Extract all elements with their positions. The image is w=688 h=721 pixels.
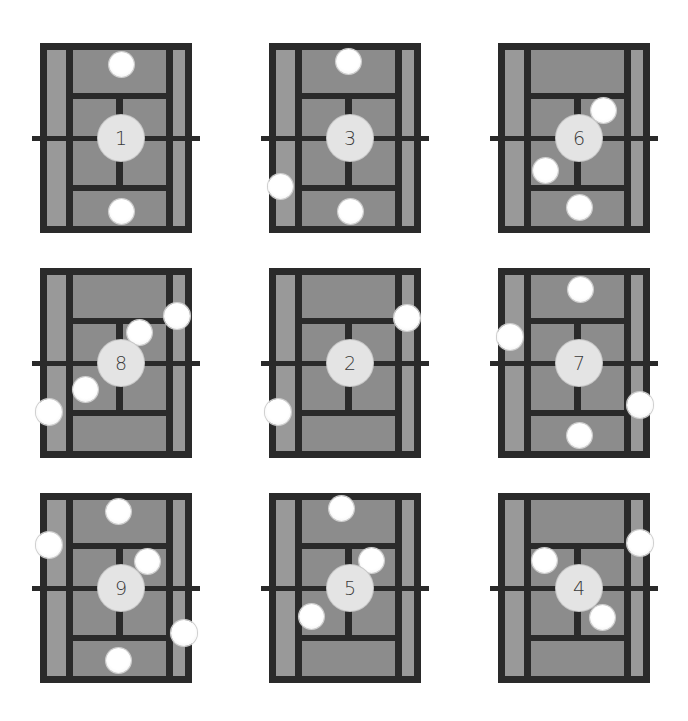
position-number-marker: 9 [98,565,144,611]
position-number-marker: 3 [327,115,373,161]
ball-position [268,174,293,199]
position-number-marker: 2 [327,340,373,386]
ball-position [36,399,62,425]
court-diagram-1: 1 [40,43,192,233]
ball-position [36,532,62,558]
ball-position [497,324,523,350]
ball-position [567,195,592,220]
ball-position [135,549,160,574]
ball-position [627,530,653,556]
court-diagram-3: 3 [269,43,421,233]
ball-position [532,548,557,573]
court-diagram-4: 4 [498,493,650,683]
ball-position [329,496,354,521]
position-number: 8 [115,352,127,374]
ball-position [568,277,593,302]
position-number-marker: 8 [98,340,144,386]
position-number: 1 [115,127,127,149]
ball-position [338,199,363,224]
ball-position [299,604,324,629]
position-number: 9 [115,577,127,599]
position-number: 2 [344,352,356,374]
position-number: 5 [344,577,356,599]
ball-position [627,392,653,418]
ball-position [591,98,616,123]
court-diagram-2: 2 [269,268,421,458]
position-number-marker: 5 [327,565,373,611]
ball-position [533,158,558,183]
court-diagram-9: 9 [40,493,192,683]
ball-position [394,305,420,331]
position-number: 3 [344,127,356,149]
position-number-marker: 1 [98,115,144,161]
ball-position [109,199,134,224]
court-diagram-5: 5 [269,493,421,683]
ball-position [590,605,615,630]
court-diagram-6: 6 [498,43,650,233]
position-number-marker: 7 [556,340,602,386]
position-number: 7 [573,352,585,374]
ball-position [106,499,131,524]
ball-position [171,620,197,646]
ball-position [164,303,190,329]
ball-position [567,423,592,448]
ball-position [336,49,361,74]
ball-position [265,399,291,425]
ball-position [109,52,134,77]
position-number: 6 [573,127,585,149]
court-diagram-7: 7 [498,268,650,458]
ball-position [106,648,131,673]
court-diagram-8: 8 [40,268,192,458]
position-number: 4 [573,577,585,599]
ball-position [73,377,98,402]
position-number-marker: 6 [556,115,602,161]
position-number-marker: 4 [556,565,602,611]
